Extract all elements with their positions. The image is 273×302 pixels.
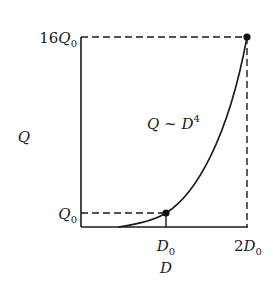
diagram-canvas: 16Q0 Q0 D0 2D0 Q D Q ~ D4: [0, 0, 273, 302]
y-tick-16q0: 16Q0: [39, 29, 77, 49]
curve-label: Q ~ D4: [147, 113, 200, 133]
point-d0-q0: [162, 209, 169, 216]
x-tick-d0: D0: [156, 237, 175, 257]
x-tick-2d0: 2D0: [234, 237, 262, 257]
y-axis-label: Q: [18, 128, 30, 146]
point-2d0-16q0: [243, 33, 250, 40]
x-axis-label: D: [159, 259, 172, 277]
y-tick-q0: Q0: [58, 205, 77, 225]
